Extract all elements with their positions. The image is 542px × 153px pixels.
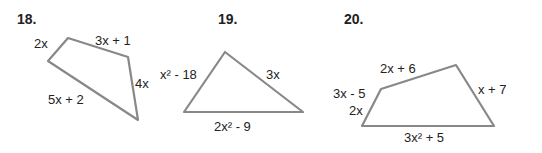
side-label: x² - 18 bbox=[160, 67, 197, 82]
side-label: 3x bbox=[266, 67, 280, 82]
quadrilateral-18 bbox=[48, 38, 138, 120]
problem-number-18: 18. bbox=[17, 11, 36, 27]
side-label: 2x bbox=[349, 103, 363, 118]
triangle-19 bbox=[184, 52, 303, 112]
side-label: 3x + 1 bbox=[95, 33, 131, 48]
side-label: 2x bbox=[34, 36, 48, 51]
side-label: 3x - 5 bbox=[333, 86, 366, 101]
side-label: 2x + 6 bbox=[380, 61, 416, 76]
side-label: 5x + 2 bbox=[48, 92, 84, 107]
side-label: 3x² + 5 bbox=[404, 130, 444, 145]
side-label: x + 7 bbox=[478, 82, 507, 97]
side-label: 2x² - 9 bbox=[214, 119, 251, 134]
side-label: 4x bbox=[135, 76, 149, 91]
problem-number-20: 20. bbox=[344, 11, 363, 27]
problem-number-19: 19. bbox=[218, 11, 237, 27]
